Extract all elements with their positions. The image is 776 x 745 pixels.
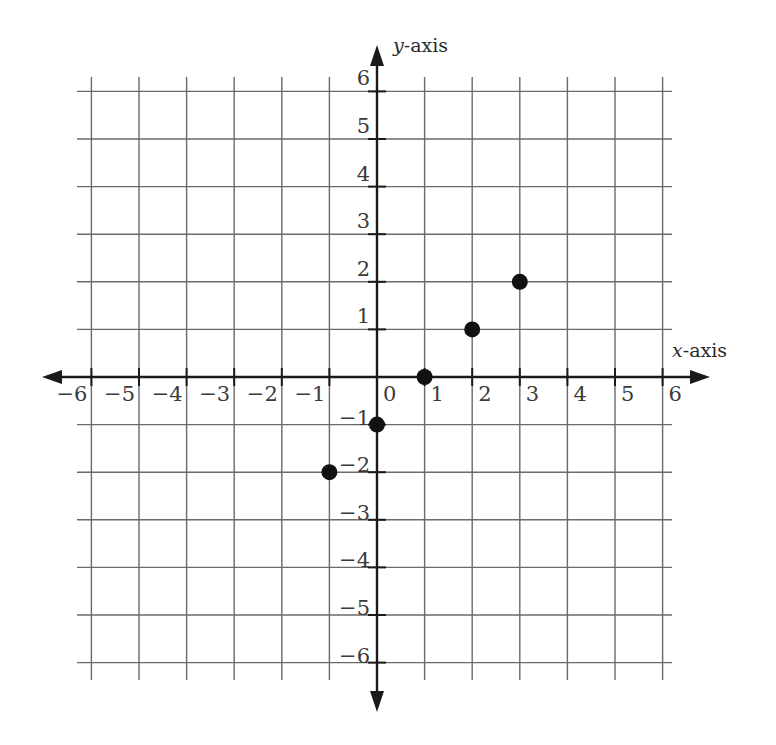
y-tick-label: −4: [339, 548, 370, 572]
x-tick-label: −6: [56, 382, 87, 406]
x-tick-label: −3: [199, 382, 230, 406]
data-point: [512, 274, 528, 290]
x-tick-label: −5: [104, 382, 135, 406]
y-tick-label: 5: [357, 114, 370, 138]
x-tick-label: 3: [526, 382, 539, 406]
y-tick-label: −6: [339, 644, 370, 668]
data-point: [417, 369, 433, 385]
y-tick-label: −5: [339, 596, 370, 620]
x-axis-label: x-axis: [672, 339, 727, 361]
y-tick-label: 4: [357, 162, 370, 186]
coordinate-plane: −6−5−4−3−2−10123456−6−5−4−3−2−1123456 y-…: [0, 0, 776, 745]
x-axis-right-arrow-icon: [690, 370, 710, 384]
x-tick-label: −4: [152, 382, 183, 406]
grid-lines: [77, 77, 672, 680]
y-tick-label: 2: [357, 257, 370, 281]
y-axis-up-arrow-icon: [370, 45, 384, 66]
x-tick-label: 5: [621, 382, 634, 406]
y-tick-label: 3: [357, 209, 370, 233]
y-tick-label: −1: [339, 406, 370, 430]
y-tick-label: 6: [357, 66, 370, 90]
x-tick-label: −2: [247, 382, 278, 406]
x-tick-label: 1: [431, 382, 444, 406]
axes: [42, 45, 710, 712]
x-tick-label: 6: [669, 382, 682, 406]
x-tick-label: −1: [294, 382, 325, 406]
y-axis-label: y-axis: [392, 34, 448, 56]
x-tick-label: 0: [383, 382, 396, 406]
y-tick-label: −2: [339, 453, 370, 477]
data-point: [321, 464, 337, 480]
y-tick-label: 1: [357, 304, 370, 328]
tick-labels: −6−5−4−3−2−10123456−6−5−4−3−2−1123456: [56, 66, 682, 667]
y-axis-down-arrow-icon: [370, 691, 384, 712]
data-point: [369, 417, 385, 433]
data-point: [464, 321, 480, 337]
x-tick-label: 4: [573, 382, 586, 406]
x-tick-label: 2: [478, 382, 491, 406]
y-tick-label: −3: [339, 501, 370, 525]
